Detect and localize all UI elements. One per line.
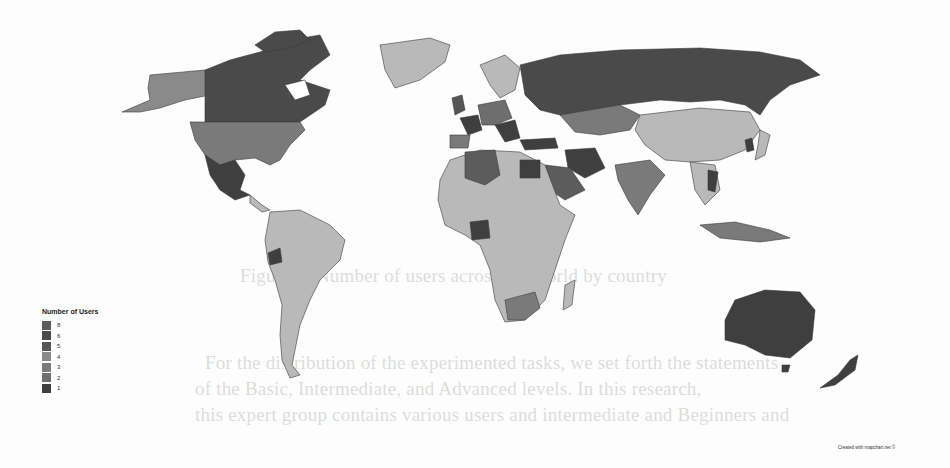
region-tasmania	[782, 365, 790, 372]
legend-swatch	[42, 373, 51, 382]
legend-label: 4	[57, 354, 60, 360]
legend-title: Number of Users	[42, 308, 98, 315]
region-central-europe	[478, 100, 512, 125]
region-new-zealand	[820, 355, 858, 388]
legend-label: 6	[57, 333, 60, 339]
region-alaska	[122, 70, 210, 112]
region-russia	[520, 48, 820, 115]
map-legend: Number of Users 8 6 5 4 3 2 1	[42, 308, 98, 394]
region-greenland	[380, 38, 450, 88]
legend-item-6: 6	[42, 331, 98, 342]
legend-swatch	[42, 321, 51, 330]
legend-item-3: 3	[42, 362, 98, 373]
region-japan	[755, 130, 770, 160]
region-france	[460, 115, 482, 135]
region-turkey	[520, 138, 558, 150]
region-korea	[745, 138, 754, 152]
region-australia	[725, 290, 815, 358]
region-indonesia	[700, 222, 790, 242]
region-south-america	[265, 210, 345, 378]
legend-swatch	[42, 342, 51, 351]
region-egypt	[520, 160, 540, 178]
region-central-america	[250, 195, 270, 212]
legend-swatch	[42, 384, 51, 393]
region-spain	[450, 135, 470, 148]
region-scandinavia	[480, 55, 520, 98]
region-china	[635, 108, 760, 162]
legend-item-1: 1	[42, 383, 98, 394]
legend-item-8: 8	[42, 320, 98, 331]
legend-swatch	[42, 363, 51, 372]
region-madagascar	[563, 280, 575, 310]
legend-label: 8	[57, 322, 60, 328]
map-credit: Created with mapchart.net ©	[838, 445, 895, 450]
legend-item-2: 2	[42, 373, 98, 384]
world-map	[0, 0, 950, 468]
legend-label: 5	[57, 343, 60, 349]
legend-label: 3	[57, 364, 60, 370]
legend-swatch	[42, 352, 51, 361]
legend-label: 2	[57, 375, 60, 381]
region-india	[615, 160, 665, 215]
region-nigeria	[470, 220, 490, 240]
legend-item-5: 5	[42, 341, 98, 352]
legend-item-4: 4	[42, 352, 98, 363]
legend-label: 1	[57, 385, 60, 391]
region-uk	[452, 95, 465, 115]
legend-swatch	[42, 331, 51, 340]
